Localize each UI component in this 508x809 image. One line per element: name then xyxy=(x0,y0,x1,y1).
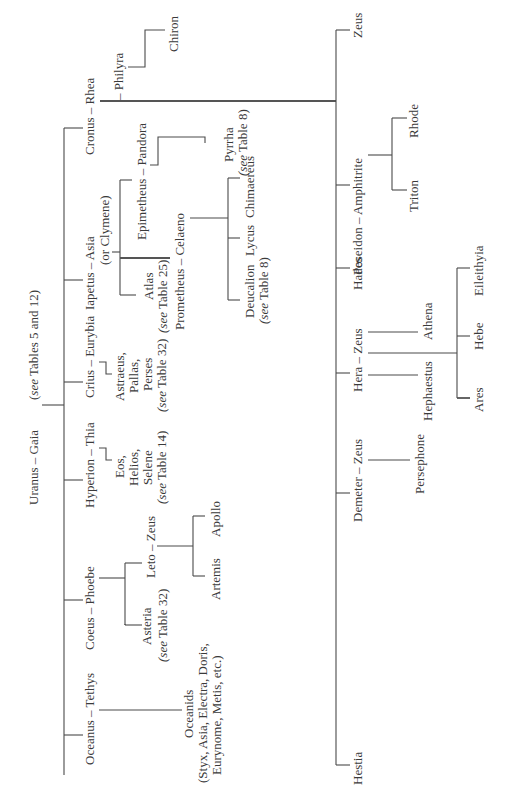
crius-note: (see Table 32) xyxy=(154,339,169,412)
hades-label: Hades xyxy=(350,258,365,291)
cronus-label: Cronus – Rhea xyxy=(82,78,97,156)
oceanids-note-2: Eurynome, Metis, etc.) xyxy=(209,656,224,776)
atlas-note: (see Table 25) xyxy=(155,260,170,333)
asteria-note: (see Table 32) xyxy=(155,589,170,662)
oceanus-label: Oceanus – Tethys xyxy=(82,673,97,765)
hera-label: Hera – Zeus xyxy=(350,328,365,392)
asteria-label: Asteria xyxy=(139,607,154,645)
crius-label: Crius – Eurybia xyxy=(82,315,97,398)
atlas-label: Atlas xyxy=(141,273,156,300)
athena-label: Athena xyxy=(420,302,435,340)
helios-label: Helios, xyxy=(126,449,141,486)
deucalion-label: Deucalion xyxy=(242,264,257,318)
astraeus-label: Astraeus, xyxy=(112,352,127,401)
apollo-label: Apollo xyxy=(208,501,223,537)
hyperion-label: Hyperion – Thia xyxy=(82,422,97,508)
hyperion-note: (see Table 14) xyxy=(154,431,169,504)
eos-label: Eos, xyxy=(112,455,127,478)
lycus-label: Lycus xyxy=(242,225,257,256)
genealogy-tree: Uranus – Gaia (see Tables 5 and 12) Ocea… xyxy=(0,0,508,809)
coeus-label: Coeus – Phoebe xyxy=(82,566,97,650)
crius-child-line xyxy=(99,362,112,374)
persephone-label: Persephone xyxy=(412,434,427,494)
oceanids-label: Oceanids xyxy=(181,690,196,738)
triton-label: Triton xyxy=(406,179,421,212)
leto-label: Leto – Zeus xyxy=(143,516,158,578)
clymene-note: (or Clymene) xyxy=(97,195,112,265)
eileithyia-label: Eileithyia xyxy=(471,245,486,296)
poseidon-label: Poseidon – Amphitrite xyxy=(350,158,365,275)
iapetus-label: Iapetus – Asia xyxy=(82,236,97,310)
prometheus-label: Prometheus – Celaeno xyxy=(172,213,187,330)
philyra-child-line xyxy=(128,30,165,67)
selene-label: Selene xyxy=(140,450,155,485)
philyra-label: – Philyra xyxy=(111,52,126,101)
pyrrha-note: (see Table 8) xyxy=(235,109,250,176)
ares-label: Ares xyxy=(471,387,486,412)
chiron-label: Chiron xyxy=(166,15,181,52)
perses-label: Perses xyxy=(140,358,155,391)
zeus-label: Zeus xyxy=(350,13,365,38)
oceanids-note-1: (Styx, Asia, Electra, Doris, xyxy=(195,643,210,783)
deucalion-note: (see Table 8) xyxy=(256,257,271,324)
hephaestus-label: Hephaestus xyxy=(420,361,435,421)
pyrrha-label: Pyrrha xyxy=(221,127,236,162)
hyperion-child-line xyxy=(99,448,112,460)
root-label: Uranus – Gaia xyxy=(26,430,41,505)
root-node: Uranus – Gaia (see Tables 5 and 12) xyxy=(26,290,41,505)
demeter-label: Demeter – Zeus xyxy=(350,439,365,522)
rhode-label: Rhode xyxy=(406,104,421,138)
hebe-label: Hebe xyxy=(471,322,486,350)
artemis-label: Artemis xyxy=(208,558,223,600)
pallas-label: Pallas, xyxy=(126,359,141,393)
hestia-label: Hestia xyxy=(350,752,365,785)
epimetheus-child-line xyxy=(150,137,205,165)
epimetheus-label: Epimetheus – Pandora xyxy=(134,123,149,240)
root-note: (see Tables 5 and 12) xyxy=(26,290,41,400)
